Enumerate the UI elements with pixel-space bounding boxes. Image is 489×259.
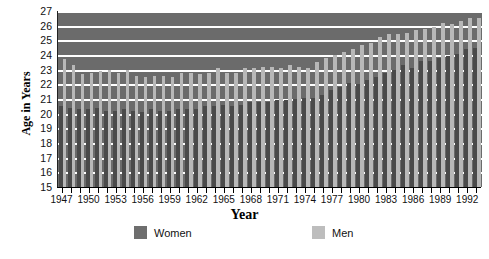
bar-men (396, 34, 400, 187)
x-axis-tick (336, 188, 345, 193)
x-axis-tick (156, 188, 165, 193)
x-axis-label-cell (472, 194, 481, 208)
y-axis-tick-label: 17 (24, 153, 52, 163)
bar-group (274, 11, 283, 187)
legend-swatch-women (134, 226, 147, 239)
bar-men (459, 21, 463, 187)
x-axis-tick (237, 188, 246, 193)
x-axis-tick (129, 188, 138, 193)
x-axis-tick (463, 188, 472, 193)
bar-men (306, 68, 310, 187)
x-axis-label-cell: 1959 (165, 194, 174, 208)
x-axis-tick (174, 188, 183, 193)
x-axis-tick (255, 188, 264, 193)
bar-men (279, 68, 283, 187)
x-axis-tick (201, 188, 210, 193)
bar-men (198, 74, 202, 187)
x-axis-label-cell: 1980 (355, 194, 364, 208)
bar-group (283, 11, 292, 187)
x-axis-tick (102, 188, 111, 193)
bar-group (166, 11, 175, 187)
bar-men (378, 37, 382, 187)
x-axis-tick (409, 188, 418, 193)
bar-men (225, 73, 229, 187)
bar-group (139, 11, 148, 187)
bar-men (333, 55, 337, 187)
x-axis-tick (291, 188, 300, 193)
y-axis-tick-label: 20 (24, 109, 52, 119)
bar-men (180, 73, 184, 187)
bar-men (99, 71, 103, 187)
x-axis-label-cell (391, 194, 400, 208)
bar-men (315, 62, 319, 187)
legend-swatch-men (312, 226, 325, 239)
x-axis-tick (309, 188, 318, 193)
x-axis-label-cell (445, 194, 454, 208)
bar-group (464, 11, 473, 187)
bar-group (175, 11, 184, 187)
x-axis-tick (300, 188, 309, 193)
bar-group (103, 11, 112, 187)
bar-group (247, 11, 256, 187)
x-axis-tick (391, 188, 400, 193)
y-axis-tick-label: 25 (24, 35, 52, 45)
bar-men (387, 34, 391, 187)
x-axis-label-cell: 1977 (327, 194, 336, 208)
x-axis-tick (84, 188, 93, 193)
legend-label-women: Women (154, 227, 192, 239)
bar-men (117, 73, 121, 187)
bar-men (441, 23, 445, 187)
x-axis-tick (282, 188, 291, 193)
bar-men (81, 74, 85, 187)
x-axis-label-cell (147, 194, 156, 208)
x-axis-label-cell: 1992 (463, 194, 472, 208)
x-axis-tick (418, 188, 427, 193)
x-axis-label-cell (66, 194, 75, 208)
bar-group (157, 11, 166, 187)
bar-group (328, 11, 337, 187)
y-axis-tick-label: 16 (24, 167, 52, 177)
x-axis-label-cell (120, 194, 129, 208)
x-axis-label-cell (228, 194, 237, 208)
x-axis-label-cell: 1971 (273, 194, 282, 208)
x-axis-label-cell: 1962 (192, 194, 201, 208)
bar-group (94, 11, 103, 187)
bar-group (112, 11, 121, 187)
bar-men (477, 18, 481, 187)
bar-group (428, 11, 437, 187)
x-axis-label-cell (282, 194, 291, 208)
bar-men (243, 68, 247, 187)
bar-group (374, 11, 383, 187)
x-axis-label-cell (201, 194, 210, 208)
x-axis-tick (445, 188, 454, 193)
legend: Women Men (0, 226, 489, 244)
x-axis-tick (373, 188, 382, 193)
legend-label-men: Men (332, 227, 353, 239)
bar-men (288, 65, 292, 187)
bar-men (468, 18, 472, 187)
x-axis-label-cell (93, 194, 102, 208)
bar-group (410, 11, 419, 187)
x-axis-label-cell: 1968 (246, 194, 255, 208)
bar-men (369, 43, 373, 187)
bar-men (234, 73, 238, 187)
x-axis-ticks (57, 188, 481, 193)
x-axis-label-cell: 1965 (219, 194, 228, 208)
x-axis-tick (318, 188, 327, 193)
bar-group (310, 11, 319, 187)
bar-group (437, 11, 446, 187)
y-axis-tick-label: 15 (24, 182, 52, 192)
x-axis-tick (346, 188, 355, 193)
x-axis-tick (183, 188, 192, 193)
bar-group (220, 11, 229, 187)
x-axis-tick (57, 188, 66, 193)
y-axis-tick-label: 23 (24, 65, 52, 75)
bar-men (432, 27, 436, 187)
bar-men (90, 73, 94, 187)
bar-men (342, 52, 346, 187)
x-axis-tick (93, 188, 102, 193)
x-axis-tick-labels: 1947195019531956195919621965196819711974… (57, 194, 481, 208)
x-axis-tick (327, 188, 336, 193)
bar-group (401, 11, 410, 187)
x-axis-label-cell (364, 194, 373, 208)
